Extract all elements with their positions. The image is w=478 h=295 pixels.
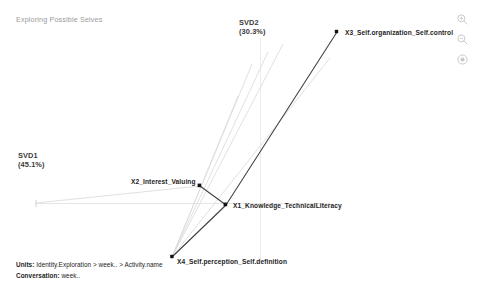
chart-canvas: Exploring Possible Selves SVD2 (30.3%) S… (0, 0, 478, 295)
point-label-x3: X3_Self.organization_Self.control (345, 29, 453, 37)
point-label-x1: X1_Knowledge_TechnicalLiteracy (233, 202, 342, 210)
footer-conversation-label: Conversation: (16, 272, 60, 279)
axis-label-svd2: SVD2 (30.3%) (239, 19, 266, 36)
data-point-x2 (198, 184, 202, 188)
svd-biplot (0, 0, 478, 295)
trajectory-path (172, 32, 337, 257)
axis-label-svd2-name: SVD2 (239, 18, 259, 27)
footer-units: Units: Identity.Exploration > week.. > A… (16, 261, 163, 269)
page-title: Exploring Possible Selves (16, 16, 102, 24)
axis-label-svd1: SVD1 (45.1%) (18, 152, 45, 169)
axis-label-svd2-variance: (30.3%) (239, 28, 266, 37)
footer-conversation: Conversation: week.. (16, 272, 80, 280)
point-label-x2: X2_Interest_Valuing (131, 178, 196, 186)
footer-units-value: Identity.Exploration > week.. > Activity… (36, 261, 162, 268)
axis-label-svd1-variance: (45.1%) (18, 161, 45, 170)
point-label-x4: X4_Self.perception_Self.definition (177, 258, 287, 266)
plot-toolbar (450, 13, 474, 66)
guide-rays (36, 44, 330, 257)
data-point-x3 (335, 30, 338, 33)
footer-units-label: Units: (16, 261, 34, 268)
axis-label-svd1-name: SVD1 (18, 151, 38, 160)
data-point-x4 (170, 255, 173, 258)
footer-conversation-value: week.. (61, 272, 80, 279)
zoom-out-icon[interactable] (456, 33, 469, 46)
reset-view-icon[interactable] (456, 53, 469, 66)
zoom-in-icon[interactable] (456, 13, 469, 26)
data-point-x1 (224, 203, 228, 207)
axis-lines (36, 38, 330, 262)
data-point-markers[interactable] (170, 30, 338, 258)
